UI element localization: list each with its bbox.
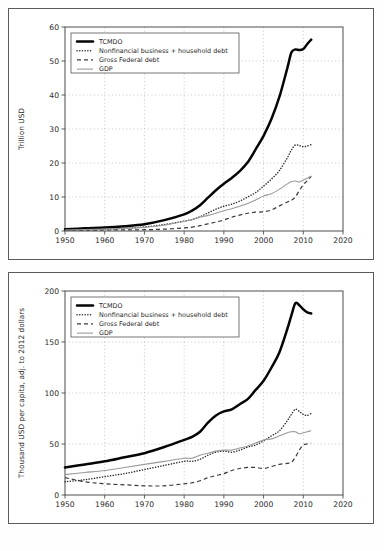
y-axis-label: Thousand USD per capita, adj. to 2012 do… bbox=[17, 308, 26, 480]
line-chart-trillion-usd: 1950196019701980199020002010202001020304… bbox=[9, 9, 373, 259]
chart-panel-bottom: 1950196019701980199020002010202005010015… bbox=[8, 272, 374, 524]
legend-label: TCMDO bbox=[98, 302, 122, 310]
legend-label: TCMDO bbox=[98, 38, 122, 46]
x-tick-label: 2020 bbox=[333, 236, 352, 245]
plot-area-top: 1950196019701980199020002010202001020304… bbox=[9, 9, 373, 259]
y-axis-label: Trillion USD bbox=[17, 108, 26, 151]
series-line bbox=[65, 443, 311, 486]
series-line bbox=[65, 176, 311, 230]
x-tick-label: 2000 bbox=[254, 236, 273, 245]
y-tick-label: 30 bbox=[49, 125, 59, 134]
series-line bbox=[65, 176, 311, 230]
x-tick-label: 1960 bbox=[95, 500, 114, 509]
y-tick-label: 0 bbox=[54, 491, 59, 500]
legend-label: Gross Federal debt bbox=[99, 56, 160, 64]
x-tick-label: 1970 bbox=[135, 236, 154, 245]
x-tick-label: 2010 bbox=[294, 236, 313, 245]
plot-area-bottom: 1950196019701980199020002010202005010015… bbox=[9, 273, 373, 523]
y-tick-label: 0 bbox=[54, 227, 59, 236]
legend-label: Gross Federal debt bbox=[99, 320, 160, 328]
y-tick-label: 20 bbox=[49, 159, 59, 168]
x-tick-label: 1980 bbox=[174, 500, 193, 509]
y-tick-label: 60 bbox=[49, 23, 59, 32]
x-tick-label: 1950 bbox=[55, 500, 74, 509]
y-tick-label: 150 bbox=[45, 338, 60, 347]
x-tick-label: 2010 bbox=[294, 500, 313, 509]
series-line bbox=[65, 145, 311, 231]
y-tick-label: 40 bbox=[49, 91, 59, 100]
y-tick-label: 100 bbox=[45, 389, 60, 398]
y-tick-label: 10 bbox=[49, 193, 59, 202]
x-tick-label: 2020 bbox=[333, 500, 352, 509]
x-tick-label: 1990 bbox=[214, 500, 233, 509]
line-chart-per-capita: 1950196019701980199020002010202005010015… bbox=[9, 273, 373, 523]
chart-panel-top: 1950196019701980199020002010202001020304… bbox=[8, 8, 374, 260]
x-tick-label: 1960 bbox=[95, 236, 114, 245]
y-tick-label: 50 bbox=[49, 57, 59, 66]
x-tick-label: 1980 bbox=[174, 236, 193, 245]
legend-label: Nonfinancial business + household debt bbox=[99, 311, 228, 319]
y-tick-label: 50 bbox=[49, 440, 59, 449]
x-tick-label: 1990 bbox=[214, 236, 233, 245]
page-caption bbox=[10, 540, 376, 550]
figure-page: 1950196019701980199020002010202001020304… bbox=[0, 0, 384, 551]
x-tick-label: 2000 bbox=[254, 500, 273, 509]
x-tick-label: 1970 bbox=[135, 500, 154, 509]
legend-label: GDP bbox=[99, 329, 113, 337]
legend-label: GDP bbox=[99, 65, 113, 73]
x-tick-label: 1950 bbox=[55, 236, 74, 245]
y-tick-label: 200 bbox=[45, 287, 60, 296]
legend-label: Nonfinancial business + household debt bbox=[99, 47, 228, 55]
